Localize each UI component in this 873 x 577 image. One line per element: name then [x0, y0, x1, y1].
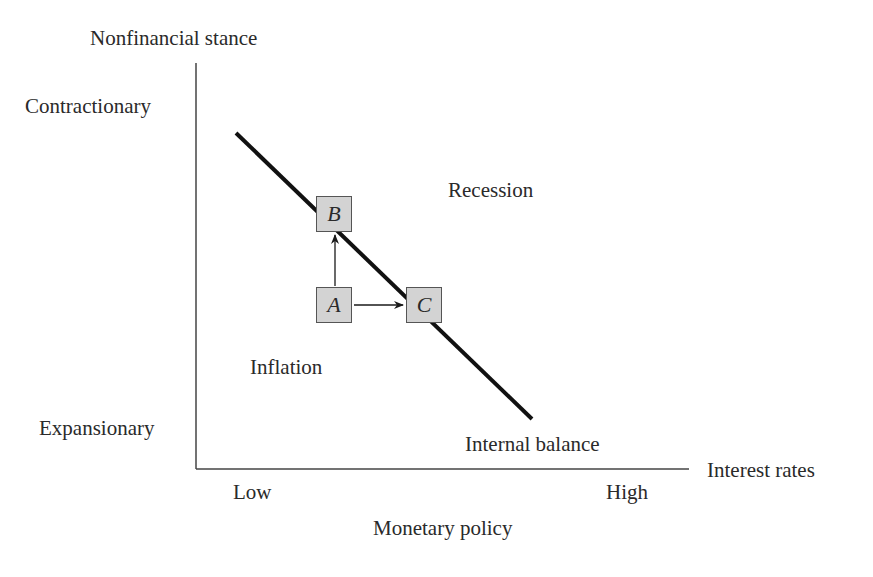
line-label-internal-balance: Internal balance [465, 434, 600, 455]
point-c-box: C [406, 287, 442, 323]
point-b-label: B [327, 201, 340, 227]
x-axis-low-label: Low [233, 482, 272, 503]
y-axis-top-label: Contractionary [25, 96, 151, 117]
point-b-box: B [316, 196, 352, 232]
region-label-recession: Recession [448, 180, 533, 201]
point-c-label: C [417, 292, 432, 318]
x-axis-caption: Monetary policy [373, 518, 512, 539]
x-axis-title: Interest rates [707, 460, 815, 481]
region-label-inflation: Inflation [250, 357, 322, 378]
point-a-label: A [327, 292, 340, 318]
y-axis-title: Nonfinancial stance [90, 28, 257, 49]
x-axis-high-label: High [606, 482, 648, 503]
point-a-box: A [316, 287, 352, 323]
y-axis-bottom-label: Expansionary [39, 418, 154, 439]
